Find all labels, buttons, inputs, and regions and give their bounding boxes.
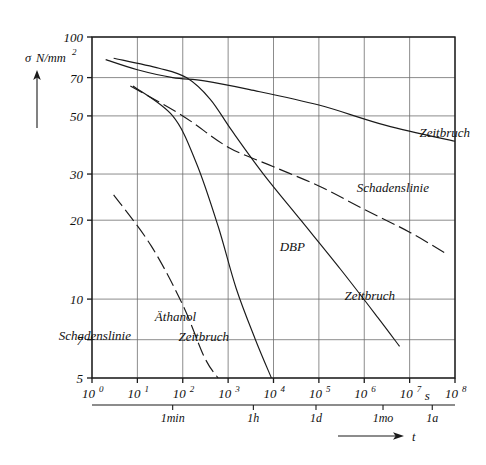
chart-svg: 100705030201075σN/mm21001011021031041051… bbox=[0, 0, 486, 465]
curve-label: Zeitbruch bbox=[178, 329, 229, 344]
x-tick-label: 106 bbox=[354, 384, 376, 401]
x-tick-mantissa: 10 bbox=[309, 386, 323, 401]
curve-label: Äthanol bbox=[154, 309, 197, 324]
x-tick-mantissa: 10 bbox=[127, 386, 141, 401]
x-axis-title: t bbox=[338, 430, 416, 444]
curve-schadenslinie-obere- bbox=[130, 86, 445, 253]
y-tick-label: 70 bbox=[70, 71, 84, 86]
x-tick-mantissa: 10 bbox=[218, 386, 232, 401]
y-axis-unit: N/mm bbox=[35, 51, 66, 65]
curve-labels: ZeitbruchSchadenslinieDBPZeitbruchÄthano… bbox=[59, 125, 470, 344]
x-tick-label: 108 bbox=[445, 384, 467, 401]
y-axis-symbol: σ bbox=[25, 51, 32, 65]
x-tick-exponent: 3 bbox=[234, 384, 240, 394]
x-tick-mantissa: 10 bbox=[264, 386, 278, 401]
curve-label: Zeitbruch bbox=[344, 288, 395, 303]
y-tick-label: 10 bbox=[70, 292, 84, 307]
x-tick-label: 101 bbox=[127, 384, 149, 401]
x-tick-label: 104 bbox=[264, 384, 286, 401]
curve-zeitbruch-luft- bbox=[106, 60, 455, 142]
x-tick-exponent: 6 bbox=[371, 384, 376, 394]
x-tick-label: 100 bbox=[82, 384, 104, 401]
x-tick-mantissa: 10 bbox=[445, 386, 459, 401]
x-tick-exponent: 1 bbox=[144, 384, 149, 394]
x-axis-symbol: t bbox=[412, 430, 416, 444]
grid-lines bbox=[92, 37, 455, 378]
time-marker-axis: 1min1h1d1mo1a bbox=[92, 405, 455, 425]
x-tick-label: 107 bbox=[400, 384, 422, 401]
x-tick-exponent: 7 bbox=[417, 384, 422, 394]
curve-label: Zeitbruch bbox=[419, 125, 470, 140]
x-axis: 100101102103104105106107108s bbox=[82, 378, 467, 403]
curve--thanol-schadenslinie bbox=[114, 195, 218, 378]
y-tick-label: 100 bbox=[64, 30, 84, 45]
time-marker-label: 1min bbox=[161, 411, 185, 425]
curve-label: DBP bbox=[279, 239, 305, 254]
time-marker-label: 1mo bbox=[373, 411, 394, 425]
x-tick-exponent: 2 bbox=[190, 384, 195, 394]
x-tick-label: 103 bbox=[218, 384, 240, 401]
x-tick-label: 105 bbox=[309, 384, 331, 401]
y-tick-label: 50 bbox=[70, 109, 84, 124]
data-curves bbox=[106, 58, 455, 378]
x-tick-label: 102 bbox=[173, 384, 195, 401]
x-tick-exponent: 5 bbox=[326, 384, 331, 394]
x-tick-exponent: 4 bbox=[281, 384, 286, 394]
time-marker-label: 1a bbox=[426, 411, 438, 425]
curve-label: Schadenslinie bbox=[357, 180, 429, 195]
y-tick-label: 20 bbox=[70, 213, 84, 228]
y-tick-label: 5 bbox=[77, 371, 84, 386]
time-marker-label: 1h bbox=[247, 411, 259, 425]
chart-figure: 100705030201075σN/mm21001011021031041051… bbox=[0, 0, 486, 465]
x-tick-mantissa: 10 bbox=[82, 386, 96, 401]
x-tick-exponent: 0 bbox=[99, 384, 104, 394]
time-marker-label: 1d bbox=[310, 411, 323, 425]
x-axis-unit: s bbox=[425, 388, 430, 403]
x-tick-exponent: 8 bbox=[462, 384, 467, 394]
curve-label: Schadenslinie bbox=[59, 328, 131, 343]
x-tick-mantissa: 10 bbox=[173, 386, 187, 401]
x-tick-mantissa: 10 bbox=[400, 386, 414, 401]
x-tick-mantissa: 10 bbox=[354, 386, 368, 401]
y-axis-unit-exponent: 2 bbox=[72, 47, 77, 57]
y-tick-label: 30 bbox=[69, 167, 84, 182]
